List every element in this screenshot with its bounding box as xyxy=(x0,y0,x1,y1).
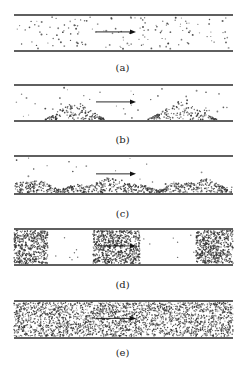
particles xyxy=(13,302,233,337)
pneumatic-conveying-flow-regimes-diagram xyxy=(0,0,245,369)
panel-label-b: (b) xyxy=(0,134,245,145)
particles xyxy=(16,87,228,121)
panel-label-d: (d) xyxy=(0,279,245,290)
panel-c xyxy=(14,156,233,194)
panel-label-c: (c) xyxy=(0,208,245,219)
panel-label-a: (a) xyxy=(0,62,245,73)
panel-a xyxy=(14,15,233,51)
panel-e xyxy=(13,301,233,338)
flow-direction-arrow-icon xyxy=(96,30,136,35)
flow-direction-arrow-icon xyxy=(96,100,136,105)
particles xyxy=(13,230,233,265)
particles xyxy=(14,157,232,193)
panel-b xyxy=(14,85,233,121)
flow-direction-arrow-icon xyxy=(96,171,136,176)
particles xyxy=(17,16,230,49)
panel-d xyxy=(13,229,233,265)
panel-label-e: (e) xyxy=(0,347,245,358)
